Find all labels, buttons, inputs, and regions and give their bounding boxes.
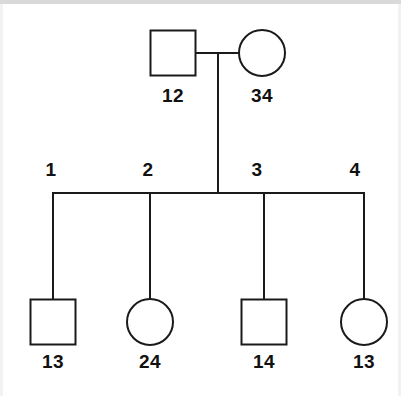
generation-two-group (31, 299, 388, 345)
sibship-position-label-1: 1 (45, 160, 56, 179)
sibship-position-label-3: 3 (251, 160, 262, 179)
child-3-label: 14 (253, 352, 275, 371)
father-label: 12 (162, 86, 184, 105)
child-4-circle-icon (341, 299, 387, 345)
generation-one-group (151, 30, 286, 194)
child-2-label: 24 (139, 352, 161, 371)
child-1-square-icon (31, 300, 76, 345)
mother-label: 34 (251, 86, 273, 105)
child-2-circle-icon (127, 299, 173, 345)
child-4-label: 13 (353, 352, 375, 371)
child-3-square-icon (242, 300, 287, 345)
pedigree-chart: 12 34 1 2 3 4 13 24 14 13 (0, 0, 401, 396)
mother-circle-icon (239, 30, 285, 76)
pedigree-canvas (0, 0, 401, 396)
father-square-icon (151, 31, 196, 76)
sibship-position-label-2: 2 (142, 160, 153, 179)
sibship-group (52, 193, 365, 300)
sibship-position-label-4: 4 (349, 160, 360, 179)
child-1-label: 13 (42, 352, 64, 371)
